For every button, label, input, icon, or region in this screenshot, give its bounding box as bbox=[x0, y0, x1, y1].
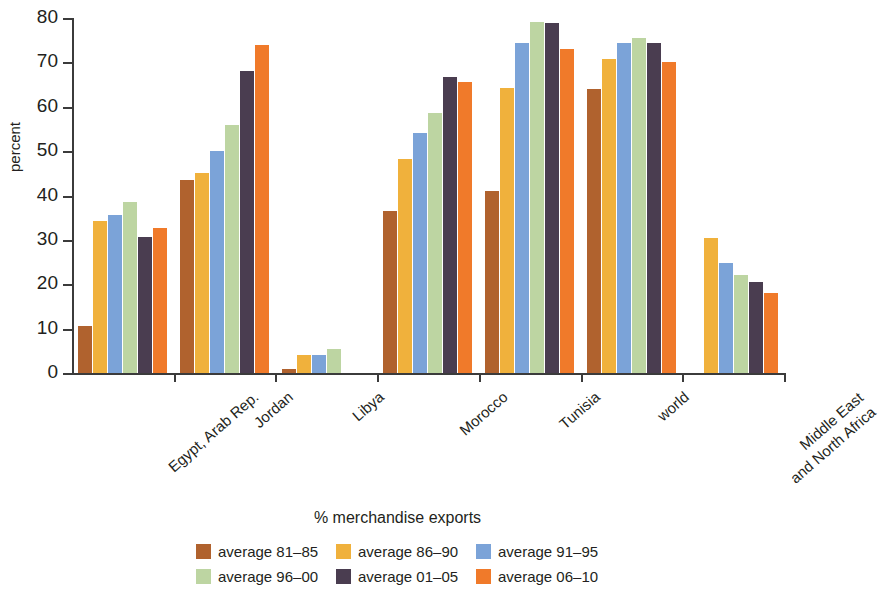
y-axis-tick: 0 bbox=[63, 373, 72, 375]
bar bbox=[662, 62, 676, 374]
y-axis-tick: 60 bbox=[63, 107, 72, 109]
bar bbox=[210, 151, 224, 373]
bar bbox=[443, 77, 457, 373]
bar-group-bars bbox=[72, 18, 180, 373]
legend-label: average 91–95 bbox=[498, 543, 598, 560]
bar bbox=[78, 326, 92, 373]
bar bbox=[93, 221, 107, 373]
x-axis-line bbox=[72, 373, 784, 375]
y-axis-tick: 70 bbox=[63, 62, 72, 64]
bar bbox=[327, 349, 341, 373]
legend-swatch bbox=[196, 544, 211, 559]
y-axis-tick-label: 10 bbox=[37, 318, 58, 337]
bar-group bbox=[682, 18, 784, 373]
bar-group bbox=[377, 18, 479, 373]
bar bbox=[153, 228, 167, 373]
x-axis-category-label: Morocco bbox=[456, 388, 511, 439]
x-axis-category-label: Middle Eastand North Africa bbox=[774, 388, 880, 487]
bar bbox=[587, 89, 601, 373]
x-axis-separator-tick bbox=[174, 373, 176, 382]
legend-item: average 96–00 bbox=[196, 568, 336, 585]
bar-group bbox=[479, 18, 581, 373]
bar bbox=[515, 43, 529, 373]
bar bbox=[485, 191, 499, 373]
bar bbox=[138, 237, 152, 373]
legend-label: average 81–85 bbox=[218, 543, 318, 560]
bar bbox=[312, 355, 326, 373]
bar bbox=[749, 282, 763, 373]
y-axis-tick: 20 bbox=[63, 284, 72, 286]
y-axis-tick: 80 bbox=[63, 18, 72, 20]
bar bbox=[545, 23, 559, 373]
legend-swatch bbox=[476, 569, 491, 584]
y-axis-tick: 50 bbox=[63, 151, 72, 153]
bar-groups bbox=[72, 18, 784, 373]
bar bbox=[255, 45, 269, 373]
bar bbox=[297, 355, 311, 373]
y-axis-tick: 40 bbox=[63, 196, 72, 198]
category-label-line: world bbox=[654, 388, 692, 424]
bar-group bbox=[581, 18, 683, 373]
bar bbox=[617, 43, 631, 373]
y-axis-tick-label: 60 bbox=[37, 96, 58, 115]
bar bbox=[647, 43, 661, 373]
bar bbox=[719, 263, 733, 373]
bar bbox=[530, 22, 544, 373]
x-axis-separator-tick bbox=[682, 373, 684, 382]
bar-group-bars bbox=[479, 18, 587, 373]
legend-swatch bbox=[336, 544, 351, 559]
legend-label: average 86–90 bbox=[358, 543, 458, 560]
legend-item: average 01–05 bbox=[336, 568, 476, 585]
y-axis-tick-label: 30 bbox=[37, 229, 58, 248]
x-axis-separator-tick bbox=[275, 373, 277, 382]
legend-swatch bbox=[336, 569, 351, 584]
bar-group-bars bbox=[581, 18, 689, 373]
chart-legend: average 81–85average 86–90average 91–95a… bbox=[196, 543, 616, 585]
bar-group bbox=[72, 18, 174, 373]
bar bbox=[764, 293, 778, 373]
bar-group-bars bbox=[275, 18, 383, 373]
x-axis-caption: % merchandise exports bbox=[0, 509, 795, 527]
bar bbox=[458, 82, 472, 373]
x-axis-separator-tick bbox=[479, 373, 481, 382]
x-axis-category-label: world bbox=[654, 388, 692, 424]
y-axis-tick-label: 70 bbox=[37, 51, 58, 70]
y-axis-tick-label: 50 bbox=[37, 140, 58, 159]
y-axis-tick-label: 80 bbox=[37, 7, 58, 26]
category-label-line: Morocco bbox=[456, 388, 511, 439]
legend-label: average 96–00 bbox=[218, 568, 318, 585]
x-axis-category-label: Tunisia bbox=[555, 388, 602, 432]
category-label-line: Libya bbox=[349, 388, 387, 424]
legend-item: average 06–10 bbox=[476, 568, 616, 585]
y-axis-tick-label: 20 bbox=[37, 273, 58, 292]
x-axis-separator-tick bbox=[581, 373, 583, 382]
legend-item: average 86–90 bbox=[336, 543, 476, 560]
bar-group bbox=[174, 18, 276, 373]
bar bbox=[560, 49, 574, 373]
legend-swatch bbox=[196, 569, 211, 584]
category-label-line: Tunisia bbox=[555, 388, 602, 432]
bar bbox=[428, 113, 442, 373]
y-axis-tick-label: 0 bbox=[47, 362, 58, 381]
x-axis-separator-tick bbox=[784, 373, 786, 382]
y-axis-title: percent bbox=[6, 122, 23, 172]
plot-area bbox=[72, 18, 784, 373]
bar bbox=[225, 125, 239, 374]
legend-label: average 06–10 bbox=[498, 568, 598, 585]
bar bbox=[398, 159, 412, 373]
bar bbox=[704, 238, 718, 373]
bar bbox=[195, 173, 209, 373]
bar bbox=[180, 180, 194, 373]
bar-group-bars bbox=[174, 18, 282, 373]
x-axis-category-label: Egypt, Arab Rep. bbox=[165, 388, 262, 475]
bar bbox=[240, 71, 254, 373]
legend-swatch bbox=[476, 544, 491, 559]
bar bbox=[632, 38, 646, 373]
bar-group bbox=[275, 18, 377, 373]
legend-item: average 81–85 bbox=[196, 543, 336, 560]
y-axis-tick-label: 40 bbox=[37, 185, 58, 204]
bar bbox=[734, 275, 748, 374]
bar bbox=[413, 133, 427, 373]
bar bbox=[123, 202, 137, 373]
